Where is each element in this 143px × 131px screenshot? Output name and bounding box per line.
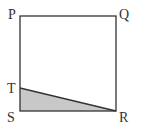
geometry-figure: P Q T S R xyxy=(0,0,143,131)
label-q: Q xyxy=(119,7,129,22)
label-t: T xyxy=(7,81,16,96)
label-s: S xyxy=(7,110,15,125)
label-p: P xyxy=(8,7,16,22)
label-r: R xyxy=(119,110,129,125)
